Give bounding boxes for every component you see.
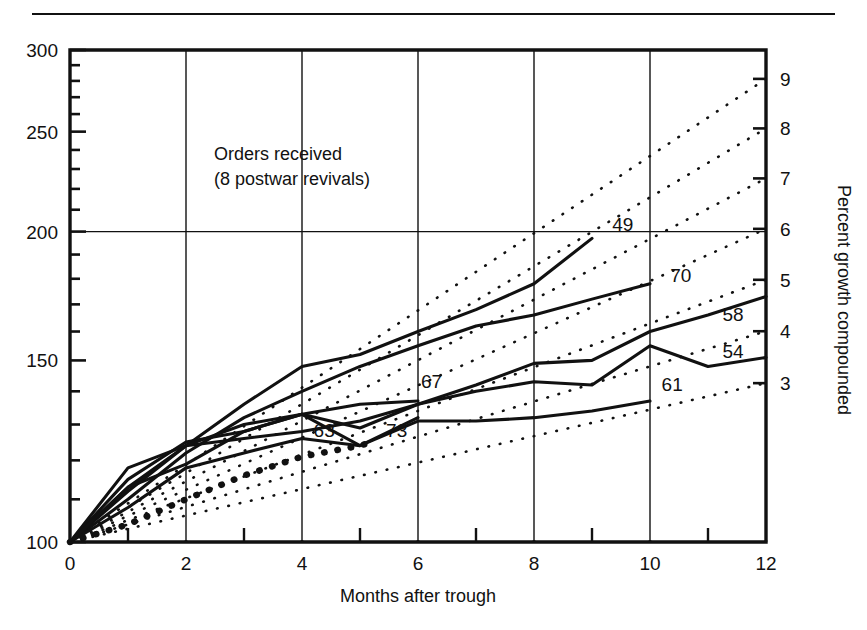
x-tick-label-10: 10: [639, 553, 660, 574]
series-label-49: 49: [612, 214, 633, 235]
y-tick-label-150: 150: [26, 350, 58, 371]
right-tick-label-7: 7: [780, 168, 791, 189]
right-tick-label-6: 6: [780, 219, 791, 240]
right-tick-label-3: 3: [780, 373, 791, 394]
series-label-73: 73: [386, 420, 407, 441]
right-tick-label-9: 9: [780, 69, 791, 90]
right-tick-label-4: 4: [780, 321, 791, 342]
x-axis-title: Months after trough: [340, 586, 496, 606]
right-axis-title: Percent growth compounded: [834, 185, 854, 415]
series-label-67: 67: [421, 371, 442, 392]
annotation-line-2: (8 postwar revivals): [214, 169, 370, 189]
figure-container: 024681012 100150200250300 3456789 497058…: [0, 0, 867, 630]
series-label-54: 54: [723, 341, 745, 362]
x-tick-label-2: 2: [181, 553, 192, 574]
x-tick-label-8: 8: [529, 553, 540, 574]
x-tick-label-4: 4: [297, 553, 308, 574]
series-label-63: 63: [314, 420, 335, 441]
y-tick-label-200: 200: [26, 222, 58, 243]
orders-received-chart: 024681012 100150200250300 3456789 497058…: [0, 0, 867, 630]
right-tick-label-8: 8: [780, 118, 791, 139]
annotation-line-1: Orders received: [214, 144, 342, 164]
series-label-70: 70: [670, 265, 691, 286]
y-tick-label-250: 250: [26, 122, 58, 143]
series-label-61: 61: [662, 374, 683, 395]
right-tick-label-5: 5: [780, 270, 791, 291]
x-tick-label-6: 6: [413, 553, 424, 574]
y-tick-label-100: 100: [26, 532, 58, 553]
x-tick-label-0: 0: [65, 553, 76, 574]
series-label-58: 58: [723, 304, 744, 325]
y-tick-label-300: 300: [26, 40, 58, 61]
x-tick-label-12: 12: [755, 553, 776, 574]
